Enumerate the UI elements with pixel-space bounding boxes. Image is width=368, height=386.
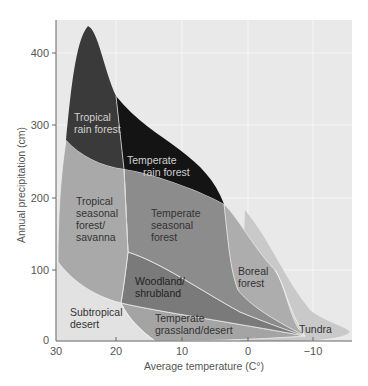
x-axis-title: Average temperature (C°) — [144, 360, 264, 372]
y-tick-100: 100 — [31, 264, 49, 276]
y-tick-400: 400 — [31, 47, 49, 59]
x-tick-labels: 30 20 10 0 −10 — [50, 345, 322, 357]
label-tropical-rain-forest-1: Tropical — [74, 111, 111, 123]
label-tropical-seasonal-3: forest/ — [76, 219, 105, 231]
label-temperate-rain-forest-2: rain forest — [143, 166, 190, 178]
label-boreal-1: Boreal — [238, 265, 268, 277]
label-temperate-grassland-1: Temperate — [155, 312, 205, 324]
y-axis-title: Annual precipitation (cm) — [15, 127, 27, 243]
x-tick-10: 10 — [176, 345, 188, 357]
label-tropical-seasonal-1: Tropical — [76, 195, 113, 207]
y-tick-300: 300 — [31, 119, 49, 131]
y-tick-200: 200 — [31, 192, 49, 204]
label-temperate-seasonal-1: Temperate — [151, 207, 201, 219]
label-boreal-2: forest — [238, 277, 264, 289]
biome-chart: 0 100 200 300 400 30 20 10 0 −10 Average… — [0, 0, 368, 386]
x-tick-20: 20 — [110, 345, 122, 357]
label-temperate-grassland-2: grassland/desert — [155, 324, 233, 336]
label-temperate-seasonal-2: seasonal — [151, 219, 193, 231]
label-tropical-seasonal-4: savanna — [76, 231, 116, 243]
x-tick-0: 0 — [245, 345, 251, 357]
label-tropical-seasonal-2: seasonal — [76, 207, 118, 219]
label-woodland-1: Woodland/ — [135, 275, 185, 287]
label-subtropical-desert-1: Subtropical — [70, 306, 123, 318]
label-temperate-rain-forest-1: Temperate — [127, 154, 177, 166]
label-temperate-seasonal-3: forest — [151, 231, 177, 243]
label-tropical-rain-forest-2: rain forest — [74, 123, 121, 135]
y-tick-labels: 0 100 200 300 400 — [31, 47, 49, 346]
label-woodland-2: shrubland — [135, 287, 181, 299]
x-tick-minus10: −10 — [304, 345, 323, 357]
x-tick-30: 30 — [50, 345, 62, 357]
label-tundra: Tundra — [299, 323, 332, 335]
y-tick-0: 0 — [43, 334, 49, 346]
label-subtropical-desert-2: desert — [70, 318, 99, 330]
